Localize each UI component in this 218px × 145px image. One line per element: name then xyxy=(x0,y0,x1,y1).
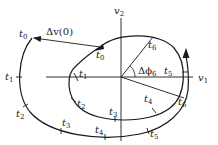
impulse-label: Δv(0) xyxy=(46,26,73,37)
outer-t2-label: t2 xyxy=(16,108,25,121)
outer-t0-label: t0 xyxy=(19,28,28,41)
inner-t2-label: t2 xyxy=(77,98,86,111)
v1-axis-label: v1 xyxy=(198,72,208,85)
inner-t6-label: t6 xyxy=(148,39,157,52)
outer-t4-label: t4 xyxy=(95,124,104,137)
orbit-direction-arrow-icon xyxy=(183,48,190,58)
inner-t1-label: t1 xyxy=(79,68,88,81)
v2-axis-label: v2 xyxy=(114,5,124,18)
outer-t3-label: t3 xyxy=(62,117,71,130)
inner-t5-label: t5 xyxy=(164,65,173,78)
impulse-vector xyxy=(34,38,100,47)
inner-t3-label: t3 xyxy=(109,106,118,119)
angle-arc xyxy=(130,66,135,77)
phase-ray-outer-t6 xyxy=(121,77,184,98)
outer-t1-label: t1 xyxy=(5,71,14,84)
phase-plane-diagram: v1 v2 Δv(0) Δϕ6 t0 t1 t2 t3 t4 t5 t6 t0 … xyxy=(0,0,218,145)
inner-t0-label: t0 xyxy=(96,49,105,62)
outer-orbit-curve xyxy=(20,38,189,137)
angle-label: Δϕ6 xyxy=(138,65,157,78)
inner-t4-label: t4 xyxy=(144,93,153,106)
